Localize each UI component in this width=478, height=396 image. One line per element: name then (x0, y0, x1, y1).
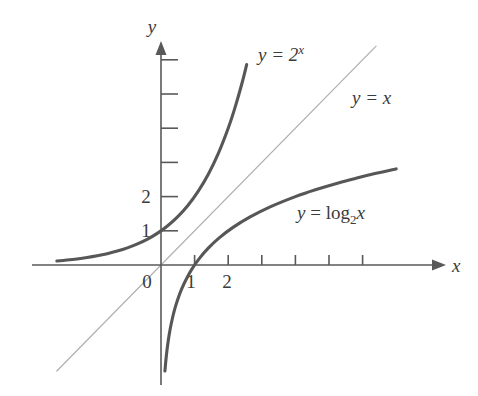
y-axis-arrowhead (156, 41, 167, 55)
logarithm-label-head: y = log (295, 202, 350, 223)
identity-curve-label: y = x (350, 87, 392, 108)
logarithm-label-y: y (295, 202, 306, 223)
y-axis-label: y (146, 16, 157, 37)
y-tick-label-2: 2 (141, 186, 151, 207)
logarithm-label-variable: x (355, 202, 365, 223)
x-tick-label-2: 2 (222, 271, 232, 292)
exponential-label-base: y = 2 (256, 44, 299, 65)
x-tick-label-1: 1 (186, 271, 196, 292)
y-tick-label-1: 1 (141, 220, 151, 241)
x-axis-ticks (195, 255, 363, 265)
exponential-logarithm-plot: y x 0 1 2 1 2 y = 2x y = x y = log2x (0, 0, 478, 396)
exponential-label-exponent: x (297, 42, 304, 57)
x-axis-arrowhead (432, 260, 446, 271)
x-axis-label: x (451, 255, 461, 276)
origin-label: 0 (142, 271, 152, 292)
exponential-curve (57, 65, 247, 261)
y-axis-ticks (161, 60, 178, 231)
logarithm-curve-label: y = log2x (295, 202, 365, 227)
figure-root: y x 0 1 2 1 2 y = 2x y = x y = log2x (0, 0, 478, 396)
logarithm-curve (165, 169, 396, 371)
exponential-curve-label: y = 2x (256, 42, 304, 65)
